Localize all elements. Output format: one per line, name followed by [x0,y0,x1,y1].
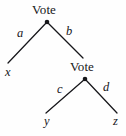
decision-node-dot-second [83,77,88,82]
decision-node-dot-root [45,20,50,25]
edge-line-root-left [8,22,47,63]
edge-label-d: d [103,81,109,94]
tree-edges-svg [0,0,126,136]
edge-line-root-right [47,22,83,58]
game-tree-diagram: Vote Vote a b c d x y z [0,0,126,136]
edge-label-c: c [57,83,63,96]
node-label-second: Vote [70,60,94,73]
leaf-label-z: z [113,115,118,128]
node-label-root: Vote [32,3,56,16]
leaf-label-x: x [5,66,11,79]
edge-label-a: a [17,27,23,40]
edge-label-b: b [66,25,72,38]
edge-line-second-left [46,79,85,113]
leaf-label-y: y [44,115,50,128]
edge-line-second-right [85,79,117,113]
